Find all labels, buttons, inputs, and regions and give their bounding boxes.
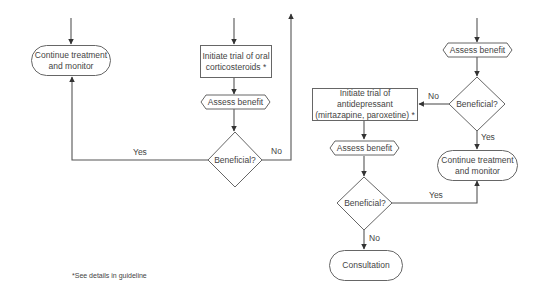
- no-label-right-bottom: No: [369, 233, 380, 243]
- continue-treatment-right-line2: and monitor: [441, 166, 513, 177]
- yes-label-right-bottom: Yes: [429, 190, 443, 200]
- continue-treatment-node-left: Continue treatment and monitor: [31, 45, 111, 76]
- initiate-corticosteroids-line2: corticosteroids *: [202, 62, 269, 73]
- decision-label-left: Beneficial?: [210, 153, 260, 167]
- continue-treatment-right-line1: Continue treatment: [441, 155, 513, 166]
- footnote: *See details in guideline: [72, 272, 147, 279]
- assess-benefit-label-right-top: Assess benefit: [443, 43, 512, 57]
- yes-label-left: Yes: [133, 147, 147, 157]
- initiate-antidepressant-line2: (mirtazapine, paroxetine) *: [313, 110, 417, 121]
- initiate-corticosteroids-node: Initiate trial of oral corticosteroids *: [200, 45, 272, 78]
- continue-treatment-node-right: Continue treatment and monitor: [437, 150, 518, 181]
- assess-benefit-label-left: Assess benefit: [201, 95, 270, 109]
- no-label-right-top: No: [428, 91, 439, 101]
- no-label-left: No: [271, 146, 282, 156]
- continue-treatment-line2: and monitor: [35, 61, 107, 72]
- initiate-antidepressant-line1: Initiate trial of antidepressant: [313, 88, 417, 110]
- continue-treatment-line1: Continue treatment: [35, 50, 107, 61]
- initiate-antidepressant-node: Initiate trial of antidepressant (mirtaz…: [312, 88, 418, 121]
- yes-label-right-top: Yes: [481, 132, 495, 142]
- initiate-corticosteroids-line1: Initiate trial of oral: [202, 51, 269, 62]
- decision-label-right-bottom: Beneficial?: [339, 196, 391, 210]
- consultation-node: Consultation: [329, 250, 403, 281]
- assess-benefit-label-right-bottom: Assess benefit: [330, 141, 399, 155]
- decision-label-right-top: Beneficial?: [451, 97, 503, 111]
